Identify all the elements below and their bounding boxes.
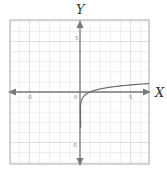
- origin-label: 0: [74, 94, 77, 100]
- log-curve: [80, 84, 149, 128]
- y-axis-down-arrow-icon: [77, 158, 84, 166]
- y-axis-label: Y: [76, 2, 86, 17]
- x-axis-label: X: [154, 85, 165, 100]
- y-tick-5: 5: [75, 35, 78, 41]
- log-graph: -5 0 5 5 -5 Y X: [0, 0, 167, 185]
- y-tick-neg5: -5: [72, 142, 77, 148]
- x-axis-right-arrow-icon: [143, 89, 151, 96]
- x-axis-left-arrow-icon: [8, 89, 16, 96]
- x-tick-neg5: -5: [27, 94, 32, 100]
- x-tick-5: 5: [129, 94, 132, 100]
